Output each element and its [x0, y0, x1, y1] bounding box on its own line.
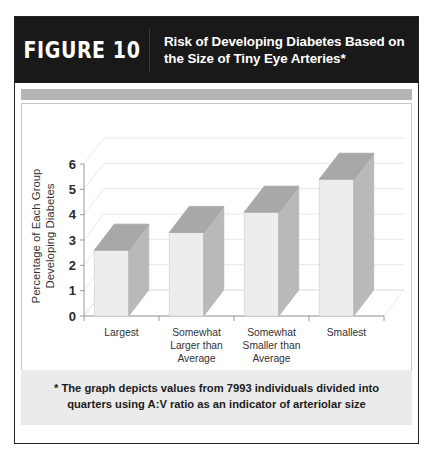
plot-panel: 0123456LargestSomewhatLarger thanAverage…: [21, 103, 412, 381]
bar-chart: 0123456LargestSomewhatLarger thanAverage…: [22, 104, 415, 380]
svg-text:Smallest: Smallest: [327, 327, 367, 338]
figure-title: Risk of Developing Diabetes Based on the…: [150, 33, 418, 67]
svg-text:4: 4: [69, 207, 77, 222]
svg-text:Somewhat: Somewhat: [247, 327, 296, 338]
svg-text:6: 6: [69, 157, 76, 172]
svg-text:1: 1: [69, 283, 76, 298]
svg-text:Average: Average: [177, 353, 215, 364]
figure-header: FIGURE 10 Risk of Developing Diabetes Ba…: [15, 17, 418, 83]
figure-number-label: FIGURE 10: [20, 37, 143, 63]
figure-footnote: * The graph depicts values from 7993 ind…: [21, 370, 412, 425]
svg-text:Percentage of Each Group: Percentage of Each Group: [30, 169, 42, 304]
figure-card: FIGURE 10 Risk of Developing Diabetes Ba…: [14, 16, 419, 444]
svg-text:5: 5: [69, 182, 76, 197]
svg-text:Average: Average: [252, 353, 290, 364]
svg-text:2: 2: [69, 258, 76, 273]
svg-text:Somewhat: Somewhat: [172, 327, 221, 338]
svg-text:Developing Diabetes: Developing Diabetes: [44, 183, 56, 288]
bar-1: [169, 206, 224, 316]
bar-2: [244, 186, 299, 316]
svg-text:Smaller than: Smaller than: [243, 340, 301, 351]
svg-text:3: 3: [69, 233, 76, 248]
svg-text:Larger than: Larger than: [170, 340, 223, 351]
header-accent-band: [21, 89, 412, 100]
bar-3: [319, 153, 374, 316]
svg-text:Largest: Largest: [104, 327, 138, 338]
svg-text:0: 0: [69, 309, 76, 324]
